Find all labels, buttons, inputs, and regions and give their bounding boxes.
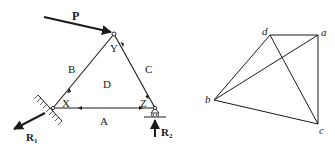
truss-diagram: P Y X Z B C D A R1 R2 bbox=[14, 9, 173, 145]
diagram-canvas: P Y X Z B C D A R1 R2 d a b c bbox=[0, 0, 335, 153]
segment-bd bbox=[214, 35, 270, 100]
reaction-r2-label: R2 bbox=[161, 126, 173, 140]
joint-z-label: Z bbox=[140, 97, 147, 109]
region-d-label: D bbox=[103, 78, 111, 90]
point-d-label: d bbox=[262, 25, 268, 37]
reaction-r1-arrow-icon bbox=[14, 113, 45, 129]
member-arrow-icon bbox=[78, 106, 82, 110]
joint-y-label: Y bbox=[110, 42, 118, 54]
joint-x-label: X bbox=[62, 97, 70, 109]
joint-y-pin bbox=[112, 32, 116, 36]
fixed-support-icon bbox=[34, 95, 62, 125]
point-a-label: a bbox=[321, 26, 327, 38]
segment-ba bbox=[214, 35, 318, 100]
region-a-label: A bbox=[100, 115, 108, 127]
load-p-label: P bbox=[72, 9, 79, 23]
region-b-label: B bbox=[68, 63, 75, 75]
point-b-label: b bbox=[205, 93, 211, 105]
force-diagram: d a b c bbox=[205, 25, 327, 136]
point-c-label: c bbox=[319, 124, 324, 136]
joint-x-pin bbox=[51, 106, 54, 109]
reaction-r1-label: R1 bbox=[26, 131, 38, 145]
segment-cb bbox=[214, 100, 318, 124]
region-c-label: C bbox=[145, 63, 152, 75]
segment-dc bbox=[270, 35, 318, 124]
